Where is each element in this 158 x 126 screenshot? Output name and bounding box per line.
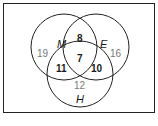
region-e-only: 16: [110, 48, 122, 59]
region-m-e-h: 7: [77, 53, 83, 64]
set-label-h: H: [76, 93, 84, 105]
region-h-only: 12: [74, 80, 86, 91]
venn-diagram: M E H 19 16 12 8 7 11 10: [0, 0, 158, 126]
region-m-only: 19: [37, 48, 49, 59]
set-label-m: M: [57, 38, 67, 50]
region-e-h: 10: [91, 63, 103, 74]
set-label-e: E: [100, 38, 108, 50]
region-m-e: 8: [77, 33, 83, 44]
region-m-h: 11: [56, 63, 67, 74]
